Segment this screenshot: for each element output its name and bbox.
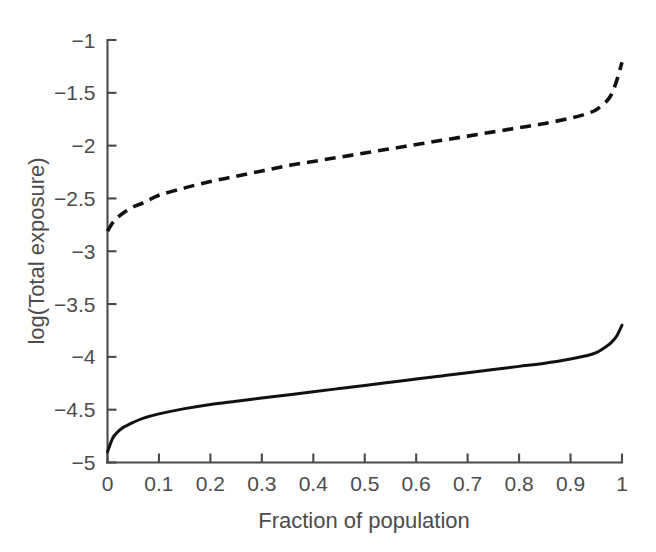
x-tick-label: 0.7 (453, 472, 482, 495)
x-tick-label: 0.1 (144, 472, 173, 495)
chart-plot-area: −1−1.5−2−2.5−3−3.5−4−4.5−5 00.10.20.30.4… (0, 0, 656, 552)
x-axis-ticks (108, 454, 623, 463)
y-tick-label: −3.5 (54, 293, 95, 316)
x-tick-label: 0.5 (350, 472, 379, 495)
x-tick-label: 0.6 (402, 472, 431, 495)
x-tick-label: 0.9 (556, 472, 585, 495)
x-axis-tick-labels: 00.10.20.30.40.50.60.70.80.91 (102, 472, 628, 495)
y-tick-label: −3 (72, 240, 96, 263)
y-tick-label: −2 (72, 134, 96, 157)
x-axis-title: Fraction of population (258, 508, 470, 533)
y-tick-label: −2.5 (54, 187, 95, 210)
y-tick-label: −4 (72, 345, 96, 368)
y-tick-label: −5 (72, 451, 96, 474)
x-tick-label: 1 (616, 472, 628, 495)
x-tick-label: 0.8 (504, 472, 533, 495)
series-solid-curve (108, 325, 623, 452)
y-tick-label: −1.5 (54, 81, 95, 104)
series-dashed-curve (108, 62, 623, 231)
chart-figure: −1−1.5−2−2.5−3−3.5−4−4.5−5 00.10.20.30.4… (0, 0, 656, 552)
x-tick-label: 0.3 (247, 472, 276, 495)
x-tick-label: 0.2 (196, 472, 225, 495)
chart-series-group (108, 62, 623, 452)
y-axis-tick-labels: −1−1.5−2−2.5−3−3.5−4−4.5−5 (54, 29, 96, 475)
y-axis-title: log(Total exposure) (24, 157, 49, 344)
y-axis-ticks (108, 40, 117, 463)
y-tick-label: −4.5 (54, 398, 95, 421)
x-tick-label: 0 (102, 472, 114, 495)
x-tick-label: 0.4 (299, 472, 329, 495)
y-tick-label: −1 (72, 29, 96, 52)
